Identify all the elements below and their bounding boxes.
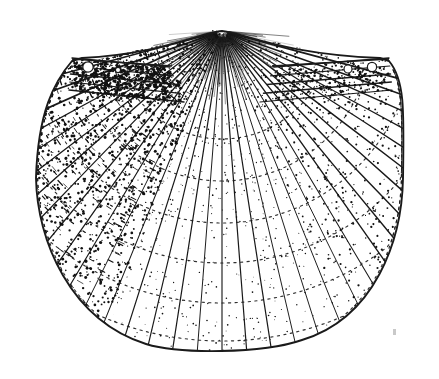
stipple-dot: [383, 137, 385, 139]
stipple-dot: [136, 89, 138, 91]
stipple-dot: [124, 133, 127, 136]
stipple-dot: [287, 92, 290, 95]
stipple-dot: [50, 117, 53, 120]
stipple-dot: [113, 212, 115, 214]
stipple-dot: [119, 58, 121, 60]
stipple-dot: [104, 63, 107, 66]
stipple-dot: [208, 38, 211, 41]
stipple-dot: [205, 64, 207, 66]
stipple-dot: [47, 134, 49, 136]
stipple-dot: [45, 170, 46, 171]
stipple-dot: [261, 77, 263, 79]
stipple-dot: [338, 57, 340, 59]
stipple-dot: [249, 140, 250, 141]
stipple-dot: [186, 55, 187, 56]
stipple-dot: [379, 67, 382, 70]
stipple-dot: [144, 214, 146, 216]
stipple-dot: [126, 86, 128, 88]
stipple-dot: [157, 186, 159, 188]
stipple-dot: [388, 96, 389, 97]
stipple-dot: [270, 284, 271, 285]
stipple-dot: [118, 120, 120, 122]
stipple-dot: [207, 186, 209, 188]
stipple-dot: [229, 122, 230, 123]
stipple-dot: [310, 230, 312, 232]
stipple-dot: [154, 306, 156, 308]
stipple-dot: [238, 274, 239, 275]
stipple-dot: [183, 92, 185, 94]
stipple-dot: [230, 154, 231, 155]
stipple-dot: [125, 82, 128, 85]
stipple-dot: [96, 222, 98, 224]
stipple-dot: [43, 175, 45, 177]
stipple-dot: [80, 75, 82, 77]
stipple-dot: [302, 160, 304, 162]
stipple-dot: [114, 321, 115, 322]
stipple-dot: [124, 187, 126, 189]
stipple-dot: [211, 281, 212, 282]
stipple-dot: [230, 141, 231, 142]
stipple-dot: [331, 165, 332, 166]
stipple-dot: [287, 104, 289, 106]
stipple-dot: [60, 234, 61, 235]
stipple-dot: [238, 138, 240, 140]
stipple-dot: [325, 91, 327, 93]
stipple-dot: [369, 148, 371, 150]
stipple-dot: [176, 142, 178, 144]
stipple-dot: [207, 303, 208, 304]
stipple-dot: [133, 157, 136, 160]
stipple-dot: [374, 257, 376, 259]
stipple-dot: [92, 139, 94, 141]
stipple-dot: [379, 261, 381, 263]
stipple-dot: [52, 128, 54, 130]
stipple-dot: [265, 240, 266, 241]
stipple-dot: [76, 108, 78, 110]
stipple-dot: [251, 95, 253, 97]
stipple-dot: [127, 175, 128, 176]
stipple-dot: [305, 245, 306, 246]
stipple-dot: [296, 188, 297, 189]
stipple-dot: [335, 207, 337, 209]
stipple-dot: [131, 191, 133, 193]
stipple-dot: [295, 189, 296, 190]
stipple-dot: [224, 142, 226, 144]
stipple-dot: [161, 183, 162, 184]
stipple-dot: [373, 161, 375, 163]
stipple-dot: [150, 68, 152, 70]
stipple-dot: [177, 134, 179, 136]
hatch-stroke: [138, 160, 140, 161]
stipple-dot: [234, 192, 236, 194]
stipple-dot: [232, 61, 233, 62]
stipple-dot: [84, 204, 86, 206]
stipple-dot: [160, 130, 162, 132]
stipple-dot: [275, 263, 277, 265]
stipple-dot: [213, 262, 214, 263]
stipple-dot: [311, 188, 312, 189]
stipple-dot: [152, 98, 154, 100]
stipple-dot: [327, 121, 329, 123]
stipple-dot: [274, 319, 275, 320]
stipple-dot: [328, 113, 330, 115]
stipple-dot: [114, 277, 115, 278]
stipple-dot: [96, 86, 99, 89]
stipple-dot: [319, 109, 321, 111]
stipple-dot: [147, 335, 148, 336]
stipple-dot: [291, 96, 293, 98]
stipple-dot: [266, 340, 267, 341]
stipple-dot: [140, 158, 141, 159]
stipple-dot: [210, 49, 212, 51]
stipple-dot: [208, 284, 210, 286]
stipple-dot: [200, 134, 202, 136]
stipple-dot: [158, 60, 159, 61]
stipple-dot: [306, 197, 307, 198]
stipple-dot: [365, 237, 366, 238]
stipple-dot: [265, 76, 267, 78]
stipple-dot: [172, 126, 174, 128]
stipple-dot: [325, 172, 327, 174]
stipple-dot: [269, 60, 270, 61]
stipple-dot: [291, 192, 292, 193]
stipple-dot: [109, 76, 111, 78]
stipple-dot: [354, 68, 356, 70]
stipple-dot: [321, 224, 323, 226]
stipple-dot: [368, 116, 370, 118]
